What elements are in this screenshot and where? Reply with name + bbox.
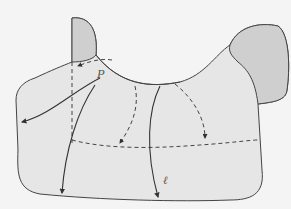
surface-drawing (0, 0, 291, 209)
saddle-surface-diagram: P ℓ (0, 0, 291, 209)
geodesic-l-label: ℓ (163, 174, 168, 187)
surface-left-flap (72, 18, 96, 62)
point-p-label: P (97, 68, 104, 81)
